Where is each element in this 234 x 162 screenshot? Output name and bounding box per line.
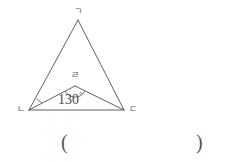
answer-close-paren: ) bbox=[196, 132, 203, 152]
angle-measure-interior: 130° bbox=[58, 91, 83, 107]
geometry-figure: ㄱ ㄴ ㄷ ㄹ 130° ( ) bbox=[0, 0, 234, 162]
answer-blank[interactable]: ( ) bbox=[0, 126, 234, 162]
angle-arc-bottom-left-icon bbox=[37, 98, 42, 102]
vertex-label-apex: ㄱ bbox=[74, 7, 82, 16]
answer-open-paren: ( bbox=[61, 132, 68, 152]
vertex-label-bottom-left: ㄴ bbox=[17, 105, 25, 114]
vertex-label-interior: ㄹ bbox=[71, 71, 79, 80]
degree-symbol-icon: ° bbox=[79, 90, 83, 100]
vertex-label-bottom-right: ㄷ bbox=[129, 105, 137, 114]
angle-measure-number: 130 bbox=[58, 92, 79, 107]
segment-apex-to-bottom-right bbox=[78, 20, 124, 110]
